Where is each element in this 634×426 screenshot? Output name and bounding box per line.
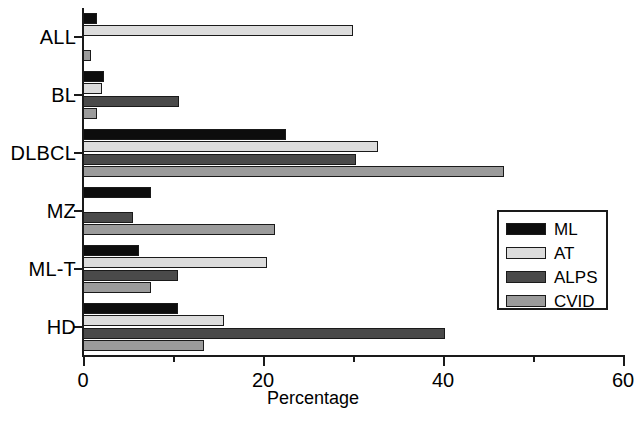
x-axis-tick-major [83, 355, 85, 366]
bar-ml-t-at [83, 257, 267, 268]
x-axis-tick-major [443, 355, 445, 366]
bar-ml-t-ml [83, 245, 139, 256]
bar-hd-alps [83, 328, 445, 339]
bar-group-bl: BL [83, 71, 623, 120]
legend-label-at: AT [554, 245, 574, 262]
x-axis-tick-major [263, 355, 265, 366]
bar-hd-ml [83, 303, 178, 314]
bar-ml-t-alps [83, 270, 178, 281]
bar-bl-cvid [83, 108, 97, 119]
bar-mz-alps [83, 212, 133, 223]
y-axis-label-all: ALL [40, 27, 76, 47]
legend-swatch-cvid-icon [506, 295, 546, 307]
y-axis-label-bl: BL [51, 85, 76, 105]
x-axis-tick-minor [353, 355, 355, 362]
y-axis-label-dlbcl: DLBCL [11, 143, 76, 163]
bar-bl-ml [83, 71, 104, 82]
legend-item-alps: ALPS [506, 266, 606, 288]
bar-group-all: ALL [83, 13, 623, 62]
x-axis-tick-minor [533, 355, 535, 362]
bar-hd-cvid [83, 340, 204, 351]
bar-dlbcl-cvid [83, 166, 504, 177]
legend-label-alps: ALPS [554, 269, 597, 286]
legend-swatch-at-icon [506, 247, 546, 259]
bar-dlbcl-at [83, 141, 378, 152]
legend-item-ml: ML [506, 218, 606, 240]
x-axis-title: Percentage [0, 388, 626, 408]
bar-all-at [83, 25, 353, 36]
bar-bl-alps [83, 96, 179, 107]
legend-item-at: AT [506, 242, 606, 264]
legend-swatch-ml-icon [506, 223, 546, 235]
y-axis-label-hd: HD [47, 317, 76, 337]
x-axis-tick-minor [173, 355, 175, 362]
y-axis-label-ml-t: ML-T [29, 259, 76, 279]
legend-label-cvid: CVID [554, 293, 595, 310]
x-axis-tick-major [623, 355, 625, 366]
bar-group-dlbcl: DLBCL [83, 129, 623, 178]
y-axis-label-mz: MZ [47, 201, 76, 221]
legend-item-cvid: CVID [506, 290, 606, 312]
bar-bl-at [83, 83, 102, 94]
legend-swatch-alps-icon [506, 271, 546, 283]
bar-hd-at [83, 315, 224, 326]
bar-dlbcl-ml [83, 129, 286, 140]
legend-label-ml: ML [554, 221, 578, 238]
bar-mz-cvid [83, 224, 275, 235]
bar-mz-ml [83, 187, 151, 198]
bar-ml-t-cvid [83, 282, 151, 293]
chart-legend: ML AT ALPS CVID [497, 210, 608, 310]
bar-all-ml [83, 13, 97, 24]
bar-all-cvid [83, 50, 91, 61]
bar-dlbcl-alps [83, 154, 356, 165]
